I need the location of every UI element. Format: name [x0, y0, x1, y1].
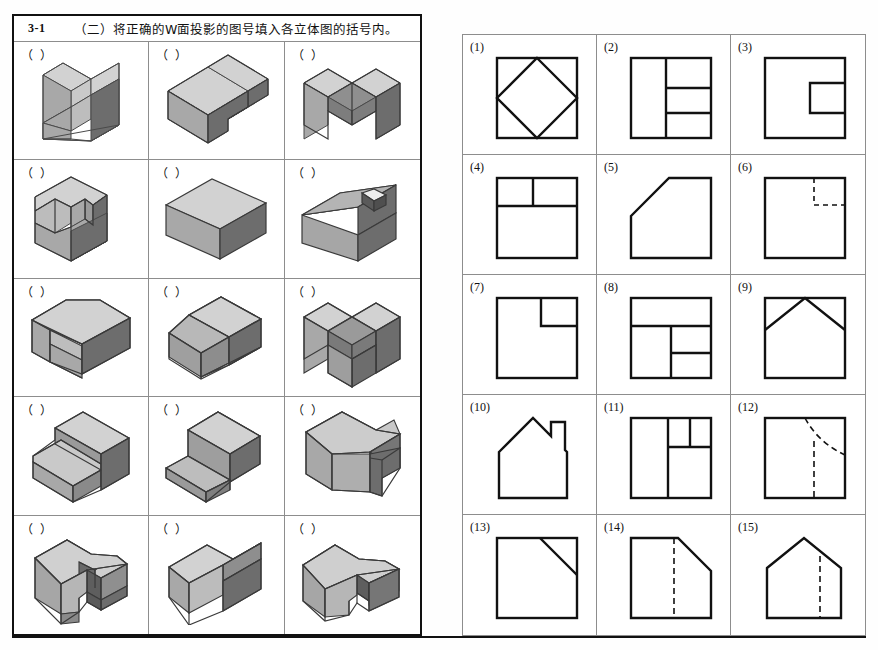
solid-figure-1	[14, 42, 148, 159]
solid-cell-13[interactable]: （ ）	[14, 516, 149, 634]
view-cell-2[interactable]: (2)	[597, 35, 731, 155]
solid-figure-5	[149, 160, 283, 277]
view-cell-4[interactable]: (4)	[463, 155, 597, 275]
solid-figure-9	[285, 279, 420, 396]
solid-cell-4[interactable]: （ ）	[14, 160, 149, 278]
exercise-instruction: （二）将正确的W面投影的图号填入各立体图的括号内。	[74, 19, 398, 38]
view-cell-7[interactable]: (7)	[463, 275, 597, 395]
solid-cell-12[interactable]: （ ）	[285, 397, 420, 515]
solid-figure-12	[285, 397, 420, 514]
solid-figure-15	[285, 516, 420, 634]
view-figure-9	[731, 275, 865, 394]
solid-figure-14	[149, 516, 283, 634]
solid-figure-2	[149, 42, 283, 159]
solid-figure-3	[285, 42, 420, 159]
solid-cell-6[interactable]: （ ）	[285, 160, 420, 278]
solid-figure-10	[14, 397, 148, 514]
view-cell-15[interactable]: (15)	[731, 515, 865, 635]
solid-cell-9[interactable]: （ ）	[285, 279, 420, 397]
solids-grid: （ ）	[14, 42, 420, 634]
view-figure-15	[731, 515, 865, 635]
solid-cell-1[interactable]: （ ）	[14, 42, 149, 160]
view-cell-11[interactable]: (11)	[597, 395, 731, 515]
exercise-number: 3-1	[14, 21, 74, 36]
solid-cell-10[interactable]: （ ）	[14, 397, 149, 515]
solid-cell-15[interactable]: （ ）	[285, 516, 420, 634]
view-cell-12[interactable]: (12)	[731, 395, 865, 515]
solids-panel: 3-1 （二）将正确的W面投影的图号填入各立体图的括号内。 （ ）	[12, 14, 422, 636]
view-figure-13	[463, 515, 596, 635]
solid-figure-11	[149, 397, 283, 514]
worksheet-page: 3-1 （二）将正确的W面投影的图号填入各立体图的括号内。 （ ）	[0, 0, 878, 650]
view-figure-8	[597, 275, 730, 394]
view-figure-14	[597, 515, 730, 635]
view-cell-10[interactable]: (10)	[463, 395, 597, 515]
view-cell-13[interactable]: (13)	[463, 515, 597, 635]
view-cell-14[interactable]: (14)	[597, 515, 731, 635]
view-cell-9[interactable]: (9)	[731, 275, 865, 395]
view-cell-5[interactable]: (5)	[597, 155, 731, 275]
solid-figure-6	[285, 160, 420, 277]
view-cell-6[interactable]: (6)	[731, 155, 865, 275]
view-figure-4	[463, 155, 596, 274]
view-figure-10	[463, 395, 596, 514]
solid-cell-7[interactable]: （ ）	[14, 279, 149, 397]
worksheet-title-row: 3-1 （二）将正确的W面投影的图号填入各立体图的括号内。	[14, 16, 420, 42]
view-figure-11	[597, 395, 730, 514]
view-cell-3[interactable]: (3)	[731, 35, 865, 155]
solid-figure-13	[14, 516, 148, 634]
solid-cell-3[interactable]: （ ）	[285, 42, 420, 160]
view-figure-2	[597, 35, 730, 154]
views-grid: (1) (2)	[463, 35, 865, 635]
view-figure-7	[463, 275, 596, 394]
solid-cell-2[interactable]: （ ）	[149, 42, 284, 160]
view-figure-12	[731, 395, 865, 514]
solid-cell-5[interactable]: （ ）	[149, 160, 284, 278]
solid-cell-8[interactable]: （ ）	[149, 279, 284, 397]
view-cell-1[interactable]: (1)	[463, 35, 597, 155]
solid-figure-8	[149, 279, 283, 396]
view-figure-3	[731, 35, 865, 154]
views-panel: (1) (2)	[462, 34, 866, 636]
solid-cell-14[interactable]: （ ）	[149, 516, 284, 634]
solid-figure-7	[14, 279, 148, 396]
solid-cell-11[interactable]: （ ）	[149, 397, 284, 515]
view-figure-1	[463, 35, 596, 154]
view-figure-6	[731, 155, 865, 274]
solid-figure-4	[14, 160, 148, 277]
view-figure-5	[597, 155, 730, 274]
page-bottom-rule	[12, 636, 866, 638]
view-cell-8[interactable]: (8)	[597, 275, 731, 395]
